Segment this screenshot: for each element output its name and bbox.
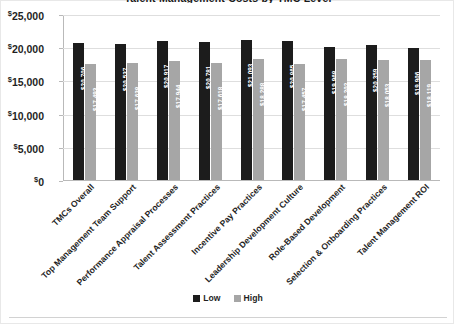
bar-low[interactable]: $20,359 <box>366 45 377 180</box>
y-axis-tick-label: $15,000 <box>0 75 44 88</box>
legend-swatch-high <box>234 295 241 302</box>
x-axis-tick-label: TMCs Overall <box>50 182 96 228</box>
bar-high[interactable]: $17,457 <box>294 64 305 180</box>
bar-high[interactable]: $17,493 <box>85 64 96 180</box>
bar-low[interactable]: $21,093 <box>241 40 252 180</box>
bar-high[interactable]: $18,288 <box>253 59 264 180</box>
y-axis-tick <box>59 81 63 82</box>
bar-low[interactable]: $20,537 <box>115 44 126 180</box>
chart-title: Talent Management Costs by TMC Level <box>1 0 454 3</box>
bar-group: $20,865$17,457 <box>273 15 315 180</box>
bar-high[interactable]: $17,638 <box>127 63 138 180</box>
legend-label: Low <box>203 293 220 303</box>
bar-value-label: $17,493 <box>90 65 101 111</box>
x-axis-tick-label: Talent Assessment Practices <box>131 182 221 272</box>
bar-high[interactable]: $18,119 <box>420 60 431 180</box>
y-axis-tick-label: $25,000 <box>0 9 44 22</box>
bar-high[interactable]: $17,618 <box>211 63 222 180</box>
bar-value-label: $18,119 <box>424 61 435 107</box>
y-axis-tick-label: $0 <box>0 175 44 188</box>
bar-group: $20,359$18,053 <box>356 15 398 180</box>
bar-low[interactable]: $20,781 <box>199 42 210 180</box>
bar-high[interactable]: $18,202 <box>336 59 347 180</box>
bar-group: $20,537$17,638 <box>106 15 148 180</box>
chart-container: Talent Management Costs by TMC Level $25… <box>0 0 454 324</box>
bar-low[interactable]: $20,917 <box>157 41 168 180</box>
y-axis-tick <box>59 115 63 116</box>
x-axis-tick-label: Incentive Pay Practices <box>189 182 264 257</box>
bar-value-label: $18,053 <box>382 61 393 107</box>
x-axis-labels: TMCs OverallTop Management Team SupportP… <box>64 182 441 282</box>
bar-value-label: $17,638 <box>132 64 143 110</box>
x-axis-tick-label: Talent Management ROI <box>355 182 431 258</box>
bar-group: $20,706$17,493 <box>64 15 106 180</box>
bar-value-label: $18,288 <box>257 60 268 106</box>
bar-low[interactable]: $20,865 <box>282 41 293 180</box>
bottom-divider <box>9 317 447 318</box>
chart-legend: LowHigh <box>1 293 454 303</box>
plot-area: $25,000$20,000$15,000$10,000$5,000$0 $20… <box>63 15 440 181</box>
bar-low[interactable]: $19,906 <box>408 48 419 180</box>
y-axis-tick-label: $20,000 <box>0 42 44 55</box>
bar-low[interactable]: $20,706 <box>73 43 84 180</box>
bar-low[interactable]: $19,968 <box>324 47 335 180</box>
bar-group: $19,968$18,202 <box>315 15 357 180</box>
y-axis-tick <box>59 48 63 49</box>
y-axis-tick-label: $5,000 <box>0 141 44 154</box>
legend-item[interactable]: High <box>234 293 263 303</box>
y-axis-tick <box>59 15 63 16</box>
bar-group: $20,917$17,944 <box>148 15 190 180</box>
bar-value-label: $17,457 <box>299 65 310 111</box>
y-axis-tick-label: $10,000 <box>0 108 44 121</box>
y-axis-tick <box>59 148 63 149</box>
bar-series-container: $20,706$17,493$20,537$17,638$20,917$17,9… <box>64 15 440 180</box>
bar-value-label: $17,944 <box>173 62 184 108</box>
y-axis-tick <box>59 181 63 182</box>
legend-swatch-low <box>193 295 200 302</box>
bar-group: $19,906$18,119 <box>398 15 440 180</box>
bar-value-label: $18,202 <box>341 60 352 106</box>
bar-group: $20,781$17,618 <box>189 15 231 180</box>
legend-label: High <box>244 293 263 303</box>
bar-value-label: $17,618 <box>215 64 226 110</box>
legend-item[interactable]: Low <box>193 293 220 303</box>
bar-group: $21,093$18,288 <box>231 15 273 180</box>
x-axis-tick-label: Role-Based Development <box>267 182 347 262</box>
bar-high[interactable]: $17,944 <box>169 61 180 180</box>
bar-high[interactable]: $18,053 <box>378 60 389 180</box>
